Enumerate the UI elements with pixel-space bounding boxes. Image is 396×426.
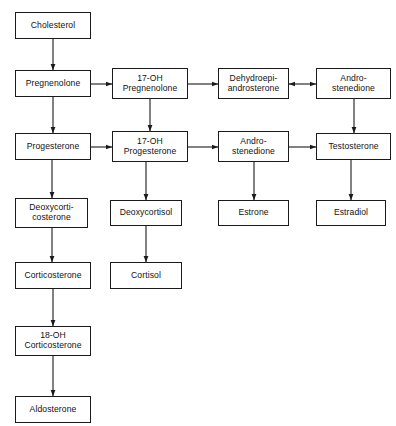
node-label: Dehydroepi- androsterone: [226, 74, 282, 93]
node-label: 17-OH Progesterone: [122, 137, 179, 156]
steroid-pathway-diagram: CholesterolPregnenolone17-OH Pregnenolon…: [0, 0, 396, 426]
node-label: 18-OH Corticosterone: [22, 331, 83, 350]
node-estrone: Estrone: [218, 200, 289, 226]
node-label: Progesterone: [25, 142, 82, 152]
node-progesterone: Progesterone: [15, 133, 91, 160]
node-oh17_progesterone: 17-OH Progesterone: [112, 131, 188, 162]
node-cholesterol: Cholesterol: [15, 12, 91, 39]
node-androstenedione_mid: Andro- stenedione: [218, 131, 289, 162]
node-oh18_corticosterone: 18-OH Corticosterone: [15, 326, 91, 356]
node-label: Deoxycorti- costerone: [27, 203, 75, 222]
node-dhea: Dehydroepi- androsterone: [218, 68, 289, 99]
node-pregnenolone: Pregnenolone: [15, 70, 91, 97]
node-testosterone: Testosterone: [316, 133, 391, 160]
edges-group: [52, 39, 354, 396]
node-label: Deoxycortisol: [118, 208, 175, 218]
node-label: Testosterone: [326, 142, 380, 152]
node-corticosterone: Corticosterone: [15, 262, 91, 289]
node-deoxycorticosterone: Deoxycorti- costerone: [15, 198, 88, 228]
node-label: Estrone: [236, 208, 270, 218]
node-estradiol: Estradiol: [316, 200, 386, 226]
node-label: Cortisol: [129, 271, 163, 281]
node-label: Andro- stenedione: [330, 74, 377, 93]
node-label: Cholesterol: [29, 21, 77, 31]
node-androstenedione_top: Andro- stenedione: [316, 68, 391, 99]
node-label: Aldosterone: [28, 405, 79, 415]
node-deoxycortisol: Deoxycortisol: [110, 200, 182, 226]
node-label: 17-OH Pregnenolone: [121, 74, 180, 93]
node-label: Corticosterone: [22, 271, 83, 281]
node-label: Estradiol: [332, 208, 370, 218]
node-label: Pregnenolone: [24, 79, 83, 89]
node-cortisol: Cortisol: [110, 262, 182, 289]
node-label: Andro- stenedione: [230, 137, 277, 156]
node-oh17_pregnenolone: 17-OH Pregnenolone: [112, 68, 188, 99]
node-aldosterone: Aldosterone: [15, 396, 91, 423]
